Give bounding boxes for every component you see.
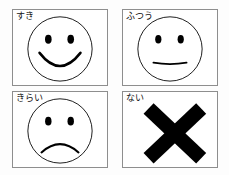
panel-label-futsuu: ふつう bbox=[126, 11, 153, 22]
emoji-choice-board: すき ふつう きらい bbox=[0, 0, 229, 175]
panel-label-kirai: きらい bbox=[16, 93, 43, 104]
panel-futsuu[interactable]: ふつう bbox=[122, 9, 218, 86]
panel-label-nai: ない bbox=[126, 93, 144, 104]
panel-nai[interactable]: ない bbox=[122, 91, 218, 168]
panel-kirai[interactable]: きらい bbox=[12, 91, 108, 168]
panel-label-suki: すき bbox=[16, 11, 34, 22]
panel-suki[interactable]: すき bbox=[12, 9, 108, 86]
